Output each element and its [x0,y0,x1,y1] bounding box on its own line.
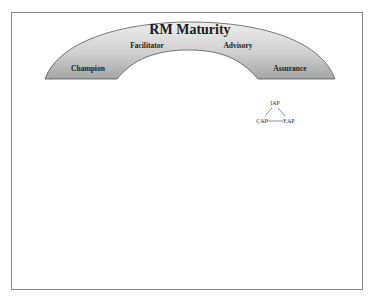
triangle-left-label: CAP [256,118,268,124]
stage-champion: Champion [71,64,105,73]
stage-facilitator: Facilitator [130,41,164,50]
maturity-arch [0,0,377,304]
triangle-top-label: IAP [270,100,280,106]
triangle-right-label: EAP [283,118,294,124]
stage-assurance: Assurance [273,64,306,73]
diagram-title: RM Maturity [149,22,230,38]
stage-advisory: Advisory [223,41,252,50]
